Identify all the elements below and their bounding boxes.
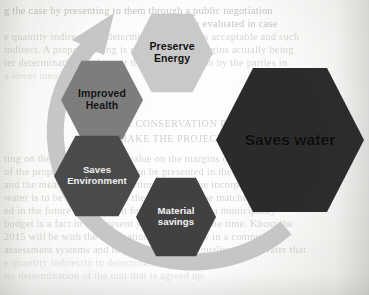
- hexagon-label: Saves Environment: [67, 165, 127, 186]
- hexagon-label: Saves water: [245, 131, 336, 148]
- scanned-page: g the case by presenting to them through…: [0, 0, 369, 295]
- hexagon-label: Preserve Energy: [149, 41, 194, 65]
- hexagon-label: Improved Health: [78, 88, 126, 112]
- hexagon-label: Material savings: [157, 206, 194, 227]
